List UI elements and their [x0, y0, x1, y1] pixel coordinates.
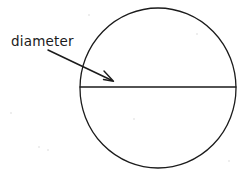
circle-outline — [80, 8, 236, 168]
circle-diameter-diagram: diameter — [0, 0, 249, 177]
arrowhead-icon — [104, 71, 114, 81]
diameter-label: diameter — [11, 33, 74, 49]
diagram-canvas: diameter — [0, 0, 249, 177]
leader-line — [48, 50, 111, 80]
